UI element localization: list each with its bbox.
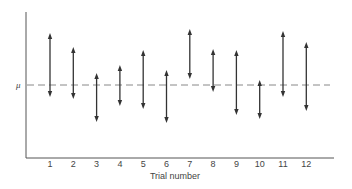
x-axis-title: Trial number [150,171,200,181]
arrow-down-icon [48,91,52,97]
arrow-down-icon [234,109,238,115]
interval-arrow [141,50,145,109]
arrow-down-icon [141,103,145,109]
interval-arrow [188,29,192,79]
interval-arrow [48,33,52,97]
x-tick-label: 12 [301,159,311,169]
arrow-up-icon [71,47,75,53]
arrow-down-icon [281,91,285,97]
chart: μ 123456789101112 Trial number [0,0,352,189]
x-tick-label: 11 [278,159,287,169]
x-tick-label: 2 [71,159,76,169]
interval-arrow [164,70,168,123]
arrow-down-icon [188,73,192,79]
x-tick-label: 4 [117,159,122,169]
interval-arrow [94,73,98,122]
x-tick-label: 8 [211,159,216,169]
arrow-down-icon [71,93,75,99]
arrow-up-icon [188,29,192,35]
arrow-down-icon [164,117,168,123]
arrow-down-icon [304,105,308,111]
interval-arrow [71,47,75,99]
interval-arrow [281,31,285,97]
arrow-up-icon [141,50,145,56]
x-tick-label: 5 [141,159,146,169]
arrow-down-icon [94,116,98,122]
x-tick-label: 7 [187,159,192,169]
interval-arrows [48,29,309,123]
interval-arrow [234,50,238,115]
arrow-up-icon [304,42,308,48]
arrow-up-icon [94,73,98,79]
interval-arrow [258,80,262,119]
arrow-down-icon [211,86,215,92]
x-tick-label: 3 [94,159,99,169]
arrow-down-icon [258,113,262,119]
arrow-up-icon [258,80,262,86]
arrow-up-icon [211,49,215,55]
interval-arrow [211,49,215,92]
arrow-up-icon [281,31,285,37]
arrow-up-icon [118,65,122,71]
x-tick-label: 10 [255,159,265,169]
mu-label: μ [15,80,21,90]
arrow-up-icon [164,70,168,76]
x-tick-labels: 123456789101112 [47,159,311,169]
arrow-up-icon [234,50,238,56]
x-tick-label: 1 [47,159,52,169]
interval-arrow [304,42,308,111]
arrow-down-icon [118,100,122,106]
x-tick-label: 9 [234,159,239,169]
arrow-up-icon [48,33,52,39]
x-tick-label: 6 [164,159,169,169]
